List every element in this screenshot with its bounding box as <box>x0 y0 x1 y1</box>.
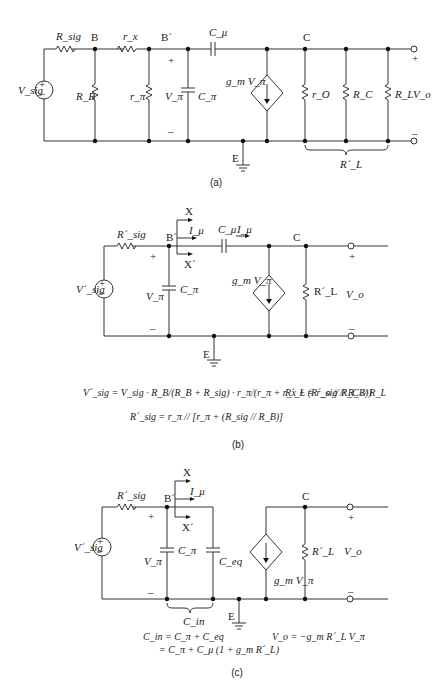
label-v-o: V_o <box>346 288 364 300</box>
label-r-l: R_L <box>394 88 413 100</box>
capacitor-c-mu <box>211 42 219 56</box>
equation-cin-2: = C_π + C_μ (1 + g_m R´_L) <box>159 644 280 656</box>
caption-b: (b) <box>232 439 244 450</box>
capacitor-c-eq <box>206 507 220 599</box>
node-c: C <box>303 31 310 43</box>
capacitor-c-mu <box>222 239 226 253</box>
node-b-prime: B´ <box>166 231 177 243</box>
label-i-mu: I_μ <box>188 224 204 236</box>
resistor-r-pi <box>146 49 152 141</box>
svg-text:–: – <box>149 322 156 334</box>
label-rl-prime: R´_L <box>339 158 362 170</box>
label-r-c: R_C <box>352 88 373 100</box>
equation-vo: V_o = −g_m R´_L V_π <box>272 631 366 642</box>
label-gm: g_m V_π <box>226 75 266 87</box>
label-r-sig: R_sig <box>55 30 82 42</box>
equation-rl-prime: R´_L = r_o // R_C // R_L <box>284 387 386 398</box>
svg-text:–: – <box>147 586 154 598</box>
resistor-r-o <box>302 49 308 141</box>
resistor-r-x <box>117 46 140 52</box>
caption-c: (c) <box>231 667 243 678</box>
label-r-b: R_B <box>75 90 95 102</box>
svg-text:+: + <box>349 250 355 262</box>
resistor-r-c <box>343 49 349 141</box>
node-x: X <box>185 205 193 217</box>
figure-a-circuit <box>35 42 417 171</box>
label-r-x: r_x <box>123 30 138 42</box>
node-e: E <box>203 348 210 360</box>
label-v-pi: V_π <box>165 90 183 102</box>
node-c: C <box>302 490 309 502</box>
capacitor-c-pi <box>181 49 195 141</box>
capacitor-c-pi <box>162 246 176 336</box>
node-b-prime: B´ <box>164 492 175 504</box>
caption-a: (a) <box>210 177 222 188</box>
resistor-rl-prime <box>303 246 309 336</box>
label-gm: g_m V_π <box>274 574 314 586</box>
label-rl-prime: R´_L <box>311 545 334 557</box>
svg-text:+: + <box>148 510 154 522</box>
node-e: E <box>232 152 239 164</box>
label-c-mu: C_μ <box>209 26 228 38</box>
svg-text:–: – <box>347 585 354 597</box>
label-i-mu: I_μ <box>189 485 205 497</box>
node-x: X <box>183 466 191 478</box>
equation-rsig-prime: R´_sig = r_π // [r_π + (R_sig // R_B)] <box>129 411 283 423</box>
label-v-pi: V_π <box>144 555 162 567</box>
label-c-in: C_in <box>183 615 205 627</box>
node-x-prime: X´ <box>182 521 194 533</box>
brace-c-in <box>167 603 213 613</box>
resistor-r-l <box>385 49 391 141</box>
label-v-pi: V_π <box>146 290 164 302</box>
brace-rl-prime <box>305 145 388 155</box>
svg-text:+: + <box>412 52 418 64</box>
svg-text:+: + <box>150 250 156 262</box>
label-c-pi: C_π <box>198 90 217 102</box>
svg-text:–: – <box>348 322 355 334</box>
label-rl-prime: R´_L <box>314 285 338 297</box>
figure-b-circuit <box>95 218 388 366</box>
label-vsig-prime: V´_sig <box>76 283 105 295</box>
label-c-eq: C_eq <box>219 555 243 567</box>
capacitor-c-pi <box>160 507 174 599</box>
label-v-o: V_o <box>413 88 431 100</box>
node-c: C <box>293 231 300 243</box>
node-b-prime: B´ <box>161 31 172 43</box>
label-vsig: V_sig <box>18 84 44 96</box>
label-c-mu: C_μ <box>218 223 237 235</box>
label-r-sig-prime: R´_sig <box>116 489 146 501</box>
equation-cin-1: C_in = C_π + C_eq <box>143 631 224 642</box>
svg-text:+: + <box>348 511 354 523</box>
label-gm: g_m V_π <box>232 274 272 286</box>
label-i-mu-2: I_μ <box>236 223 252 235</box>
svg-text:+: + <box>168 54 174 66</box>
node-b: B <box>91 31 98 43</box>
label-c-pi: C_π <box>180 283 199 295</box>
label-r-sig-prime: R´_sig <box>116 228 146 240</box>
label-v-o: V_o <box>344 545 362 557</box>
svg-text:–: – <box>411 127 418 139</box>
label-vsig-prime: V´_sig <box>74 541 103 553</box>
svg-text:–: – <box>167 125 174 137</box>
node-e: E <box>228 610 235 622</box>
label-c-pi: C_π <box>178 544 197 556</box>
label-r-pi: r_π <box>130 90 146 102</box>
label-r-o: r_O <box>312 88 330 100</box>
node-x-prime: X´ <box>184 258 196 270</box>
